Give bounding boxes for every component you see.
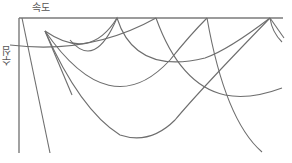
fan-curve-mid [45,18,207,87]
straight-lines [22,18,50,153]
fan-curve-shallow [45,18,117,44]
arc-207-down [207,18,262,152]
steep-line [22,18,50,153]
catenary-diagram [0,0,292,163]
fan-curve-deep [45,18,270,138]
arc-270-tail-b [270,18,282,42]
arc-156-right [156,18,282,96]
arc-156-left [10,18,156,47]
fan-curve-steep [45,31,72,95]
curves [10,18,284,152]
